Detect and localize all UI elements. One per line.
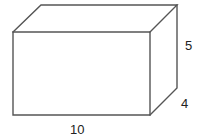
top-face — [13, 5, 177, 32]
depth-label: 4 — [181, 96, 188, 111]
right-face — [150, 5, 177, 115]
length-label: 10 — [70, 122, 84, 137]
prism — [13, 5, 177, 115]
prism-diagram: 5 4 10 — [0, 0, 206, 139]
height-label: 5 — [185, 38, 192, 53]
front-face — [13, 32, 150, 115]
